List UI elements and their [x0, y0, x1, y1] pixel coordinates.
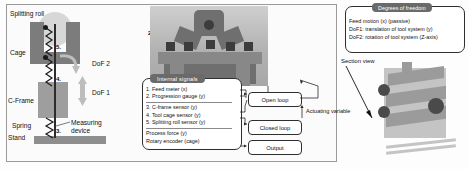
cad-bearing-lower	[378, 106, 390, 118]
cad-column	[402, 62, 412, 72]
cad-bearing-upper	[378, 84, 390, 96]
cad-section-view	[372, 62, 464, 162]
diagram-root: Splitting roll Cage C-Frame Spring Stand…	[0, 0, 469, 169]
cad-spindle-head	[428, 98, 444, 114]
